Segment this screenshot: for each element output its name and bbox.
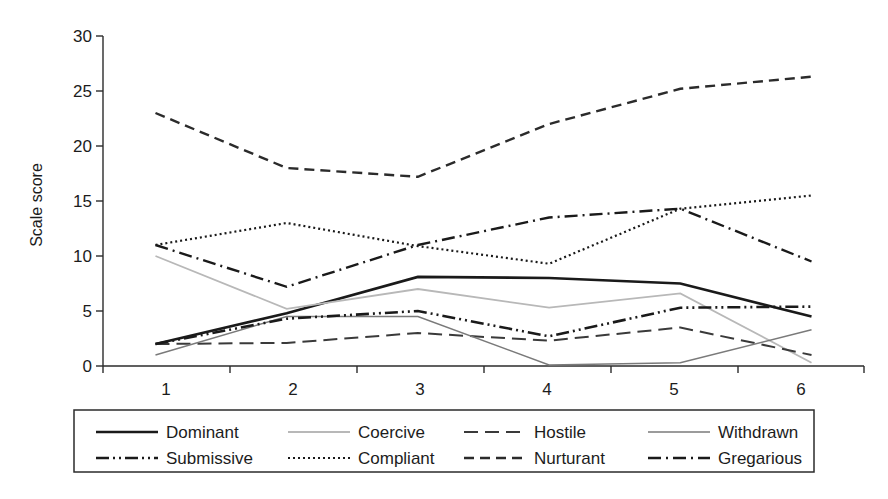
- y-axis-title: Scale score: [28, 163, 45, 247]
- y-tick-label-30: 30: [73, 27, 92, 46]
- y-tick-label-25: 25: [73, 82, 92, 101]
- legend-label-dominant: Dominant: [166, 423, 239, 442]
- x-axis-tick-labels: 1 2 3 4 5 6: [161, 380, 805, 399]
- series-line-compliant: [155, 196, 811, 264]
- legend-label-compliant: Compliant: [358, 449, 435, 468]
- y-tick-label-0: 0: [83, 357, 92, 376]
- x-tick-label-6: 6: [796, 380, 805, 399]
- data-series-group: [155, 77, 811, 365]
- legend-label-nurturant: Nurturant: [534, 449, 605, 468]
- legend: DominantCoerciveHostileWithdrawnSubmissi…: [74, 410, 814, 472]
- y-tick-label-15: 15: [73, 192, 92, 211]
- y-tick-label-20: 20: [73, 137, 92, 156]
- legend-label-gregarious: Gregarious: [718, 449, 802, 468]
- series-line-submissive: [155, 307, 811, 344]
- y-tick-label-10: 10: [73, 247, 92, 266]
- x-tick-label-1: 1: [161, 380, 170, 399]
- legend-label-submissive: Submissive: [166, 449, 253, 468]
- x-tick-label-2: 2: [288, 380, 297, 399]
- x-tick-label-5: 5: [669, 380, 678, 399]
- x-axis: [103, 366, 864, 373]
- series-line-nurturant: [155, 77, 811, 177]
- legend-label-withdrawn: Withdrawn: [718, 423, 798, 442]
- y-axis: [96, 36, 103, 366]
- legend-label-coercive: Coercive: [358, 423, 425, 442]
- line-chart: Scale score 0 5 10 15 20 25 30: [0, 0, 888, 499]
- series-line-coercive: [155, 256, 811, 363]
- x-tick-label-4: 4: [542, 380, 551, 399]
- chart-figure: Scale score 0 5 10 15 20 25 30: [0, 0, 888, 499]
- y-axis-tick-labels: 0 5 10 15 20 25 30: [73, 27, 92, 376]
- series-line-gregarious: [155, 209, 811, 287]
- legend-label-hostile: Hostile: [534, 423, 586, 442]
- y-tick-label-5: 5: [83, 302, 92, 321]
- legend-items: DominantCoerciveHostileWithdrawnSubmissi…: [96, 423, 802, 468]
- x-tick-label-3: 3: [415, 380, 424, 399]
